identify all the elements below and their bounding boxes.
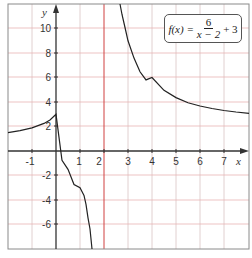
y-tick-label: -2 [42,170,51,181]
formula-fraction: 6 x − 2 [197,17,220,40]
x-tick-label: 3 [125,156,131,167]
x-tick-label: 6 [197,156,203,167]
formula-tail: + 3 [223,23,237,35]
y-axis-label: y [41,6,47,18]
x-tick-label: 1 [76,156,82,167]
y-tick-label: 6 [45,72,51,83]
y-tick-label: -4 [42,195,51,206]
y-axis-arrow-icon [53,4,59,13]
x-tick-label: 2 [96,156,102,167]
y-tick-label: -6 [42,219,51,230]
y-tick-label: 4 [45,97,51,108]
formula-lhs: f(x) = [168,23,193,35]
x-tick-label: 5 [173,156,179,167]
y-tick-label: 8 [45,48,51,59]
x-axis-label: x [235,155,241,167]
x-tick-label: 7 [221,156,227,167]
formula-denominator: x − 2 [197,29,220,40]
y-tick-labels: 10 8 6 4 2 -2 -4 -6 [40,23,52,230]
y-tick-label: 10 [40,23,52,34]
x-tick-label: 4 [149,156,155,167]
x-axis-arrow-icon [240,148,249,154]
formula-label: f(x) = 6 x − 2 + 3 [164,14,242,43]
x-tick-label: -1 [26,156,35,167]
